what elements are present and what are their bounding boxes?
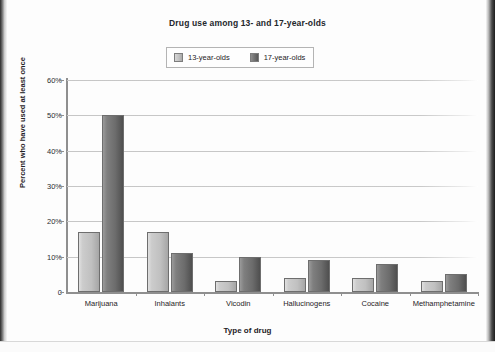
legend-label-13-year-olds: 13-year-olds [188,53,230,62]
legend-swatch-icon-13-year-olds [174,53,183,62]
bar [308,260,330,292]
x-axis-separator-tick [478,292,479,296]
bar [171,253,193,292]
bar [102,115,124,292]
y-tick-mark [60,115,64,116]
bar [445,274,467,292]
x-axis-separator-tick [410,292,411,296]
bar [147,232,169,292]
plot-area [67,80,478,292]
legend-item-17-year-olds: 17-year-olds [250,53,306,62]
bar [284,278,306,292]
y-tick-mark [60,292,64,293]
bar-group [341,80,410,292]
bar [376,264,398,292]
bar-group [136,80,205,292]
x-axis-title: Type of drug [0,326,495,335]
y-axis-title: Percent who have used at least once [18,23,27,223]
x-axis-separator-tick [341,292,342,296]
bar-group [67,80,136,292]
legend-label-17-year-olds: 17-year-olds [264,53,306,62]
bar-chart-figure: Drug use among 13- and 17-year-olds 13-y… [0,0,495,352]
y-axis-tick-marks [0,0,70,352]
chart-title: Drug use among 13- and 17-year-olds [0,18,495,28]
x-axis-separator-tick [273,292,274,296]
x-category-label: Cocaine [341,299,410,308]
legend-item-13-year-olds: 13-year-olds [174,53,230,62]
bar-group [204,80,273,292]
y-tick-mark [60,186,64,187]
bar [239,257,261,292]
x-category-label: Methamphetamine [410,299,479,308]
x-category-label: Inhalants [136,299,205,308]
y-tick-mark [60,151,64,152]
legend-swatch-icon-17-year-olds [250,53,259,62]
bar [421,281,443,292]
x-category-label: Hallucinogens [273,299,342,308]
bar [352,278,374,292]
bar-group [410,80,479,292]
y-tick-mark [60,221,64,222]
bar [215,281,237,292]
bar-group [273,80,342,292]
x-category-label: Vicodin [204,299,273,308]
bar [78,232,100,292]
x-category-label: Marijuana [67,299,136,308]
chart-legend: 13-year-olds 17-year-olds [166,47,314,68]
x-axis-separator-tick [136,292,137,296]
y-tick-mark [60,257,64,258]
y-tick-mark [60,80,64,81]
x-axis-separator-tick [204,292,205,296]
